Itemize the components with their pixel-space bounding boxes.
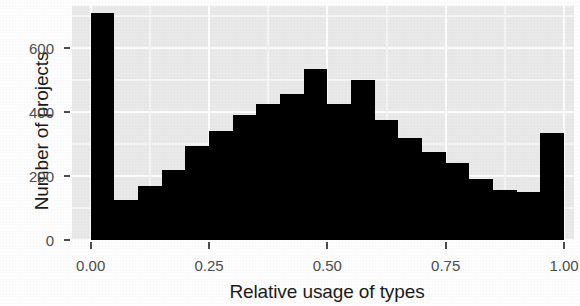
histogram-bar — [91, 13, 115, 240]
histogram-bar — [422, 152, 446, 240]
histogram-bar — [493, 190, 517, 240]
histogram-bar — [138, 186, 162, 240]
x-axis-title: Relative usage of types — [90, 281, 564, 303]
histogram-bar — [375, 120, 399, 240]
y-axis-tick-label: 600 — [8, 40, 54, 57]
y-axis-tick-label: 0 — [8, 232, 54, 249]
y-axis-tick-mark — [64, 47, 70, 49]
histogram-bar — [469, 179, 493, 240]
histogram-bar — [209, 131, 233, 240]
gridline-horizontal-minor — [72, 15, 574, 17]
histogram-bar — [304, 69, 328, 240]
histogram-bar — [540, 133, 564, 240]
y-axis-tick-mark — [64, 111, 70, 113]
x-axis-tick-label: 1.00 — [529, 257, 580, 274]
x-axis-tick-label: 0.25 — [174, 257, 244, 274]
x-axis-tick-mark — [563, 242, 565, 249]
gridline-horizontal-major — [72, 47, 574, 49]
x-axis-tick-mark — [208, 242, 210, 249]
histogram-bar — [233, 115, 257, 240]
histogram-bar — [351, 80, 375, 240]
histogram-bar — [114, 200, 138, 240]
histogram-bar — [185, 146, 209, 240]
y-axis-tick-label: 400 — [8, 104, 54, 121]
histogram-bar — [327, 104, 351, 240]
x-axis-tick-label: 0.75 — [411, 257, 481, 274]
histogram-bar — [446, 163, 470, 240]
y-axis-tick-labels: 0200400600 — [8, 0, 54, 306]
y-axis-tick-mark — [64, 175, 70, 177]
x-axis-tick-label: 0.00 — [56, 257, 126, 274]
histogram-bar — [256, 104, 280, 240]
histogram-bar — [162, 170, 186, 240]
y-axis-tick-mark — [64, 239, 70, 241]
y-axis-tick-label: 200 — [8, 168, 54, 185]
x-axis-tick-mark — [445, 242, 447, 249]
x-axis-tick-label: 0.50 — [292, 257, 362, 274]
x-axis-tick-mark — [326, 242, 328, 249]
histogram-figure: Number of projects 0200400600 0.000.250.… — [0, 0, 580, 306]
plot-panel — [72, 6, 574, 240]
histogram-bar — [517, 192, 541, 240]
histogram-bar — [398, 138, 422, 240]
x-axis-tick-mark — [90, 242, 92, 249]
histogram-bar — [280, 94, 304, 240]
